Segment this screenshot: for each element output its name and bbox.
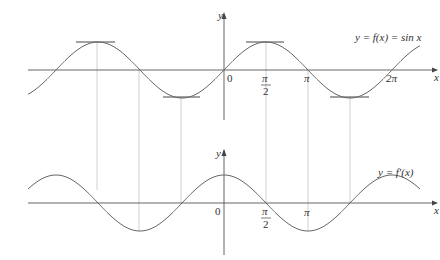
x-axis-label: x <box>433 71 439 83</box>
tick-pi: π <box>304 72 310 84</box>
tick-2pi: 2π <box>386 72 398 84</box>
bottom-graph: y x 0 π 2 π y = f′(x) <box>28 147 439 255</box>
derivative-diagram: y x 0 π 2 π 2π y = f(x) = sin x y x 0 π … <box>0 0 440 260</box>
equation-label: y = f(x) = sin x <box>354 31 422 44</box>
y-axis-label: y <box>215 147 221 159</box>
top-graph: y x 0 π 2 π 2π y = f(x) = sin x <box>28 9 439 120</box>
tick-pi-over-2-num: π <box>262 205 268 217</box>
x-axis-label: x <box>433 204 439 216</box>
equation-label: y = f′(x) <box>377 166 414 179</box>
origin-label: 0 <box>215 205 221 217</box>
tangent-lines <box>76 42 369 97</box>
tick-pi-over-2-den: 2 <box>263 85 269 97</box>
tick-pi-over-2-den: 2 <box>263 218 269 230</box>
y-axis-arrow-icon <box>222 149 227 156</box>
tick-pi: π <box>304 206 310 218</box>
tick-pi-over-2-num: π <box>262 72 268 84</box>
y-axis-label: y <box>217 9 223 21</box>
origin-label: 0 <box>227 72 233 84</box>
